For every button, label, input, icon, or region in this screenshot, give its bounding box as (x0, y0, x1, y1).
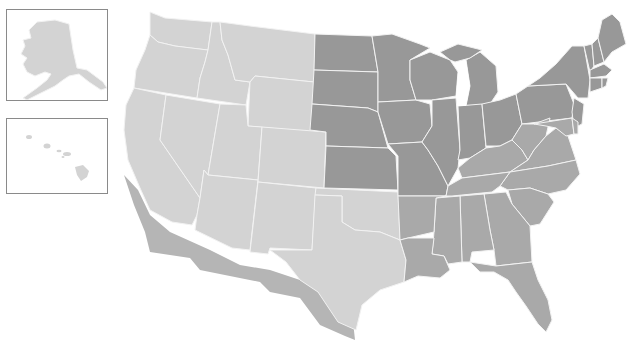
state-ME[interactable] (598, 14, 626, 62)
us-map (0, 0, 636, 351)
state-CO[interactable] (258, 127, 326, 188)
state-NM[interactable] (250, 182, 316, 254)
state-RI[interactable] (602, 78, 608, 88)
state-MS[interactable] (432, 196, 462, 264)
state-AZ[interactable] (195, 170, 258, 250)
state-WY[interactable] (248, 76, 314, 132)
state-CT[interactable] (590, 78, 602, 92)
state-KS[interactable] (324, 146, 398, 190)
state-MT[interactable] (220, 22, 315, 82)
state-IA[interactable] (378, 100, 432, 144)
state-FL[interactable] (470, 262, 552, 332)
state-PA[interactable] (516, 84, 574, 124)
state-MI[interactable] (466, 52, 498, 106)
state-ND[interactable] (314, 34, 378, 72)
